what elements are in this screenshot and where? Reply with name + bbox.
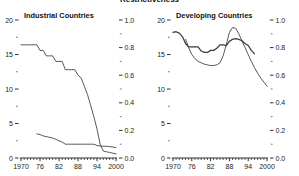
- data-series-line: [186, 28, 267, 87]
- chart-developing-countries: 1970768288942000051015200.00.20.40.60.81…: [150, 0, 299, 176]
- y-left-tick-label: 10: [157, 86, 165, 93]
- panel-developing-countries: Developing Countries 1970768288942000051…: [150, 0, 299, 176]
- y-right-tick-label: 0.0: [276, 155, 286, 162]
- x-tick-label: 76: [188, 163, 196, 170]
- y-left-tick-label: 20: [5, 17, 13, 24]
- y-right-tick-label: 0.8: [276, 44, 286, 51]
- y-left-tick-label: 15: [5, 51, 13, 58]
- y-right-tick-label: 0.0: [125, 155, 135, 162]
- y-left-tick-label: 5: [161, 120, 165, 127]
- data-series-line: [21, 45, 116, 154]
- y-right-tick-label: 0.6: [125, 72, 135, 79]
- x-tick-label: 88: [74, 163, 82, 170]
- x-tick-label: 82: [55, 163, 63, 170]
- y-right-tick-label: 0.4: [125, 99, 135, 106]
- y-left-tick-label: 5: [9, 120, 13, 127]
- x-tick-label: 88: [226, 163, 234, 170]
- y-left-tick-label: 0: [9, 155, 13, 162]
- x-tick-label: 1970: [165, 163, 181, 170]
- y-right-tick-label: 0.2: [276, 127, 286, 134]
- x-tick-label: 1970: [13, 163, 29, 170]
- y-right-tick-label: 1.0: [276, 17, 286, 24]
- y-right-tick-label: 0.8: [125, 44, 135, 51]
- x-tick-label: 82: [207, 163, 215, 170]
- y-right-tick-label: 0.2: [125, 127, 135, 134]
- x-tick-label: 2000: [108, 163, 124, 170]
- y-right-tick-label: 0.4: [276, 99, 286, 106]
- y-right-tick-label: 1.0: [125, 17, 135, 24]
- y-right-tick-label: 0.6: [276, 72, 286, 79]
- x-tick-label: 2000: [259, 163, 275, 170]
- x-tick-label: 94: [93, 163, 101, 170]
- figure-restrictiveness: Restrictiveness Industrial Countries 197…: [0, 0, 299, 176]
- y-left-tick-label: 10: [5, 86, 13, 93]
- chart-industrial-countries: 1970768288942000051015200.00.20.40.60.81…: [0, 0, 150, 176]
- panel-industrial-countries: Industrial Countries 1970768288942000051…: [0, 0, 150, 176]
- y-left-tick-label: 15: [157, 51, 165, 58]
- data-series-line: [37, 134, 116, 148]
- x-tick-label: 94: [244, 163, 252, 170]
- y-left-tick-label: 20: [157, 17, 165, 24]
- x-tick-label: 76: [36, 163, 44, 170]
- data-series-line: [173, 32, 254, 54]
- y-left-tick-label: 0: [161, 155, 165, 162]
